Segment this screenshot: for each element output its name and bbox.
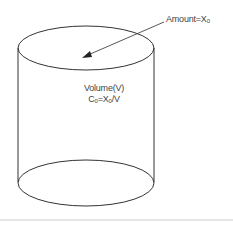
amount-subscript: 0	[207, 18, 210, 24]
arrow-head-icon	[82, 51, 92, 58]
cylinder-diagram	[0, 0, 233, 226]
amount-text: Amount=X	[166, 14, 207, 24]
conc-mid: =X	[98, 94, 109, 104]
amount-arrow-line	[88, 22, 164, 55]
cylinder-bottom-ellipse	[18, 160, 154, 206]
volume-concentration-label: Volume(V) C0=X0/V	[69, 83, 139, 107]
volume-label: Volume(V)	[69, 83, 139, 94]
conc-suffix: /V	[112, 94, 120, 104]
concentration-label: C0=X0/V	[69, 94, 139, 107]
cylinder-top-ellipse	[18, 26, 154, 70]
amount-label: Amount=X0	[166, 14, 210, 24]
